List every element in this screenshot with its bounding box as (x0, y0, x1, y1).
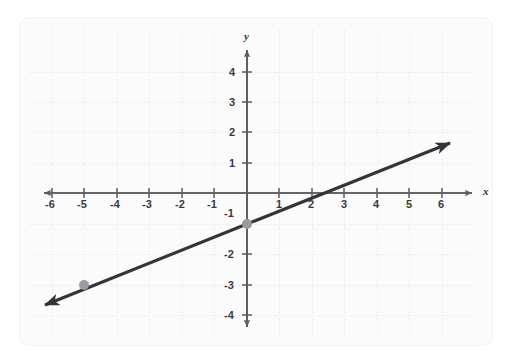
y-tick-label-neg4: -4 (224, 309, 234, 321)
x-tick-label-neg4: -4 (110, 198, 120, 210)
y-tick-label-1: 1 (229, 157, 235, 169)
y-tick-label-2: 2 (229, 126, 235, 138)
x-tick-label-2: 2 (308, 198, 314, 210)
x-tick-label-neg2: -2 (175, 198, 185, 210)
x-tick-label-neg5: -5 (77, 198, 87, 210)
y-tick-label-neg2: -2 (224, 248, 234, 260)
x-tick-label-neg3: -3 (142, 198, 152, 210)
y-tick-label-3: 3 (229, 96, 235, 108)
y-tick-label-neg1: -1 (224, 207, 234, 219)
y-tick-label-neg3: -3 (224, 279, 234, 291)
graph-figure: x y -6 -5 -4 -3 -2 -1 1 2 3 4 5 6 4 3 2 … (0, 0, 515, 364)
point-y-intercept (242, 219, 252, 229)
x-tick-label-neg6: -6 (45, 198, 55, 210)
x-tick-label-5: 5 (406, 198, 412, 210)
x-tick-label-6: 6 (438, 198, 444, 210)
x-tick-label-4: 4 (373, 198, 379, 210)
point-second (79, 280, 89, 290)
x-axis-label: x (483, 185, 489, 197)
coordinate-plane-svg (0, 0, 515, 364)
y-axis-label: y (244, 30, 249, 42)
y-tick-label-4: 4 (229, 66, 235, 78)
gridlines (30, 30, 478, 336)
x-tick-label-neg1: -1 (207, 198, 217, 210)
plotted-line (247, 143, 450, 224)
plotted-line-left (45, 224, 247, 305)
x-tick-label-1: 1 (276, 198, 282, 210)
x-tick-label-3: 3 (341, 198, 347, 210)
